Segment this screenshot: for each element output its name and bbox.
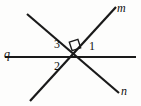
line-n — [27, 14, 119, 93]
angle-label-2: 2 — [54, 60, 60, 72]
angle-label-3: 3 — [54, 38, 60, 50]
line-label-n: n — [121, 85, 127, 97]
right-angle-marker-icon — [69, 39, 80, 50]
diagram-canvas — [0, 0, 141, 106]
geometry-figure: q m n 1 2 3 — [0, 0, 141, 106]
line-label-m: m — [117, 2, 126, 14]
line-label-q: q — [4, 48, 10, 60]
angle-label-1: 1 — [89, 40, 95, 52]
